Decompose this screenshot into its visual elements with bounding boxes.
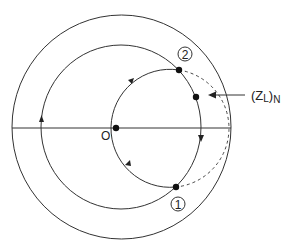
arrow-icon (198, 135, 204, 142)
point1-dot (173, 184, 179, 190)
point2-label: 2 (182, 48, 189, 62)
arrow-icon (128, 78, 134, 84)
origin-dot (113, 125, 119, 131)
load-dot (193, 94, 199, 100)
outer-circle (12, 15, 231, 239)
smith-chart-diagram: 2 1 O (ZL)N (0, 0, 291, 241)
origin-label: O (101, 129, 110, 143)
load-label: (ZL)N (251, 88, 280, 105)
point1-label: 1 (175, 198, 182, 212)
arrow-icon (125, 160, 131, 166)
point2-dot (176, 67, 182, 73)
diagram-svg: 2 1 O (ZL)N (0, 0, 291, 241)
arrow-icon (208, 92, 216, 99)
arrow-icon (39, 115, 44, 122)
